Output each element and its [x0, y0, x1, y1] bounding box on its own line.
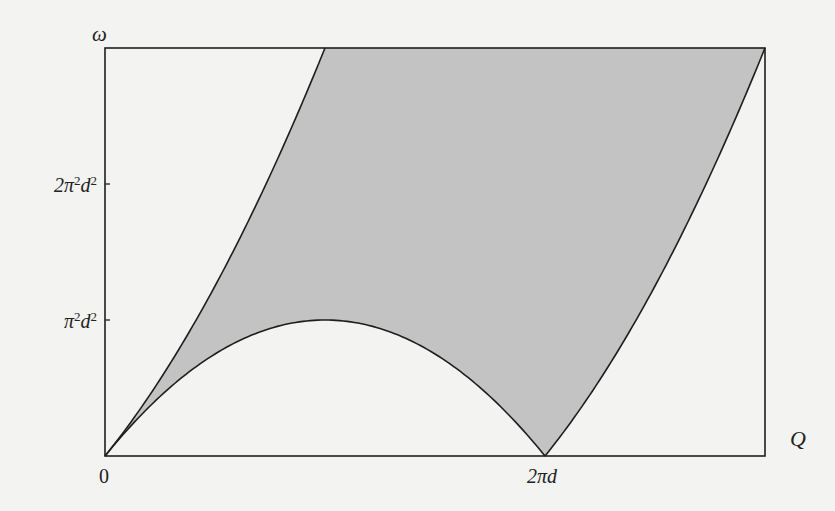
x-tick-label-2pid: 2πd	[527, 466, 557, 486]
plot-area	[0, 0, 835, 511]
tick-text: d	[81, 310, 91, 332]
y-axis-label: ω	[92, 24, 107, 45]
tick-text: π	[64, 310, 74, 332]
continuum-figure: ω Q 2π2d2 π2d2 0 2πd	[0, 0, 835, 511]
x-tick-label-zero: 0	[99, 466, 109, 486]
superscript: 2	[91, 173, 98, 188]
y-tick-label-2pi2d2: 2π2d2	[54, 174, 97, 195]
tick-text: 2π	[54, 174, 74, 196]
shaded-continuum-region	[105, 48, 765, 456]
x-axis-label: Q	[790, 428, 806, 450]
y-tick-label-pi2d2: π2d2	[64, 310, 97, 331]
tick-text: d	[81, 174, 91, 196]
superscript: 2	[91, 309, 98, 324]
